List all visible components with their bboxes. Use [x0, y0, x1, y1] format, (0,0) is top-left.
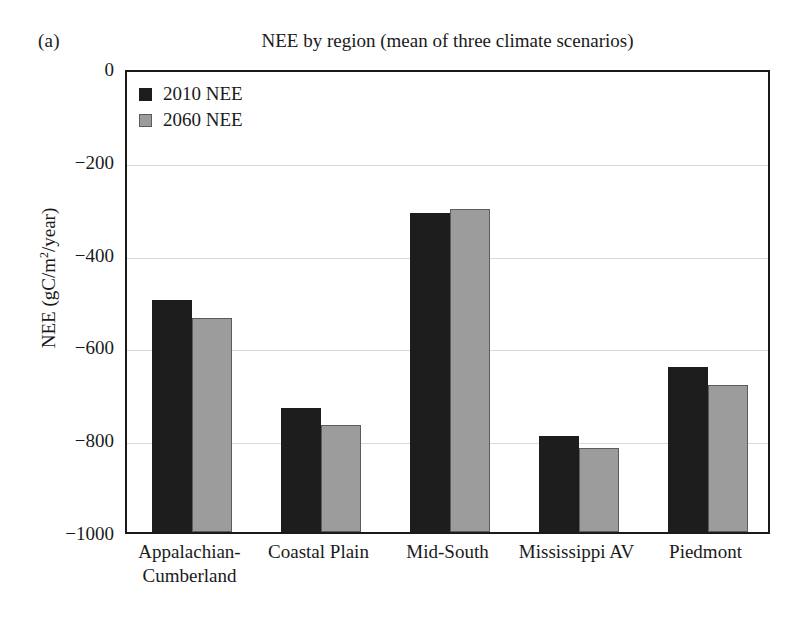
x-tick-label-line: Cumberland [138, 564, 240, 588]
legend-label: 2060 NEE [163, 109, 243, 131]
bar-1[interactable] [192, 318, 232, 532]
bar-0[interactable] [281, 408, 321, 532]
y-tick-label: −200 [0, 152, 114, 174]
x-tick-label: Coastal Plain [268, 540, 369, 564]
legend-swatch [139, 114, 152, 127]
legend-entry[interactable]: 2060 NEE [139, 107, 243, 133]
x-tick-label: Piedmont [669, 540, 742, 564]
y-tick-label: −400 [0, 245, 114, 267]
chart-title: NEE by region (mean of three climate sce… [125, 30, 770, 52]
bar-group [152, 72, 232, 532]
x-tick-label: Mid-South [406, 540, 488, 564]
x-tick-label: Appalachian-Cumberland [138, 540, 240, 588]
bar-group [410, 72, 490, 532]
plot-area: 2010 NEE2060 NEE [125, 70, 770, 534]
x-axis-tick-labels: Appalachian-CumberlandCoastal PlainMid-S… [125, 540, 770, 620]
bar-0[interactable] [668, 367, 708, 532]
x-tick-label-line: Appalachian- [138, 541, 240, 562]
bar-0[interactable] [152, 300, 192, 532]
x-tick-label-line: Mississippi AV [519, 541, 634, 562]
panel-label: (a) [38, 30, 60, 52]
x-tick-label-line: Piedmont [669, 541, 742, 562]
y-tick-label: 0 [0, 59, 114, 81]
y-tick-label: −600 [0, 337, 114, 359]
legend: 2010 NEE2060 NEE [139, 81, 243, 133]
bar-1[interactable] [579, 448, 619, 532]
bars-layer [127, 72, 768, 532]
bar-0[interactable] [410, 213, 450, 532]
bar-1[interactable] [708, 385, 748, 532]
legend-label: 2010 NEE [163, 83, 243, 105]
bar-1[interactable] [450, 209, 490, 532]
bar-0[interactable] [539, 436, 579, 533]
figure-panel: (a) NEE by region (mean of three climate… [0, 0, 807, 627]
bar-group [281, 72, 361, 532]
bar-group [539, 72, 619, 532]
legend-entry[interactable]: 2010 NEE [139, 81, 243, 107]
y-tick-label: −1000 [0, 523, 114, 545]
x-tick-label-line: Mid-South [406, 541, 488, 562]
bar-group [668, 72, 748, 532]
legend-swatch [139, 88, 152, 101]
y-tick-label: −800 [0, 430, 114, 452]
x-tick-label: Mississippi AV [519, 540, 634, 564]
x-tick-label-line: Coastal Plain [268, 541, 369, 562]
bar-1[interactable] [321, 425, 361, 532]
